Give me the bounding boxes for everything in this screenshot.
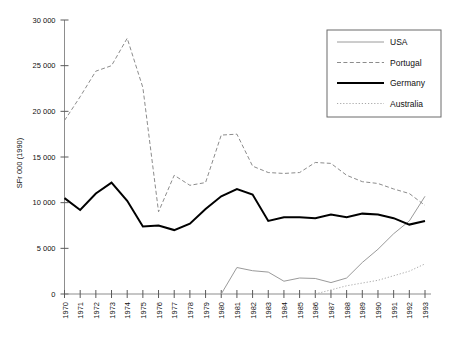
y-tick-label: 10 000 (33, 198, 56, 207)
x-tick-label: 1977 (170, 302, 179, 319)
x-tick-label: 1974 (123, 302, 132, 319)
y-tick-label: 15 000 (33, 153, 56, 162)
x-axis: 1970197119721973197419751976197719781979… (61, 290, 432, 319)
y-tick-label: 30 000 (33, 16, 56, 25)
y-axis-title: SFr 000 (1990) (15, 137, 24, 188)
x-tick-label: 1978 (186, 302, 195, 319)
x-tick-label: 1979 (202, 302, 211, 319)
line-chart: 05 00010 00015 00020 00025 00030 000 197… (0, 0, 450, 337)
x-tick-label: 1991 (390, 302, 399, 319)
series-line-germany (65, 183, 426, 231)
chart-container: 05 00010 00015 00020 00025 00030 000 197… (0, 0, 450, 337)
x-tick-label: 1981 (233, 302, 242, 319)
x-tick-label: 1989 (358, 302, 367, 319)
x-tick-label: 1992 (405, 302, 414, 319)
series-line-usa (221, 196, 425, 294)
x-tick-label: 1983 (264, 302, 273, 319)
x-tick-label: 1972 (92, 302, 101, 319)
y-axis: 05 00010 00015 00020 00025 00030 000 (33, 16, 69, 299)
x-tick-label: 1985 (296, 302, 305, 319)
x-tick-label: 1986 (311, 302, 320, 319)
legend-label-usa: USA (390, 37, 408, 47)
legend-label-germany: Germany (390, 78, 426, 88)
chart-legend: USAPortugalGermanyAustralia (327, 30, 441, 117)
y-tick-label: 20 000 (33, 107, 56, 116)
series-line-australia (315, 264, 425, 294)
x-tick-label: 1984 (280, 302, 289, 319)
x-tick-label: 1971 (76, 302, 85, 319)
x-tick-label: 1970 (61, 302, 70, 319)
x-tick-label: 1980 (217, 302, 226, 319)
x-tick-label: 1976 (155, 302, 164, 319)
y-tick-label: 0 (51, 290, 55, 299)
y-tick-label: 25 000 (33, 61, 56, 70)
legend-label-australia: Australia (390, 99, 423, 109)
legend-label-portugal: Portugal (390, 58, 422, 68)
x-tick-label: 1982 (249, 302, 258, 319)
y-tick-label: 5 000 (37, 244, 56, 253)
x-tick-label: 1988 (343, 302, 352, 319)
x-tick-label: 1987 (327, 302, 336, 319)
x-tick-label: 1975 (139, 302, 148, 319)
x-tick-label: 1990 (374, 302, 383, 319)
x-tick-label: 1973 (108, 302, 117, 319)
x-tick-label: 1993 (421, 302, 430, 319)
